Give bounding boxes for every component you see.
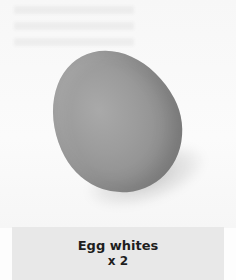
ingredient-caption: Egg whites x 2 [12,227,224,280]
ingredient-photo [0,0,236,228]
ingredient-quantity: x 2 [108,254,128,269]
ingredient-name: Egg whites [78,238,159,254]
ingredient-card[interactable]: Egg whites x 2 [0,0,236,280]
background-texture [14,6,134,54]
